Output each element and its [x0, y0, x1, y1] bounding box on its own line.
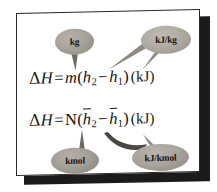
callout-bubble-kj-per-kg: kJ/kg — [141, 25, 191, 54]
equation-unit: (kJ) — [129, 110, 155, 127]
equation-molar-basis: ΔH=N(h2−h1)(kJ) — [29, 108, 155, 131]
callout-label-kj-per-kmol: kJ/kmol — [145, 152, 177, 163]
equation-unit: (kJ) — [129, 68, 155, 85]
callout-label-kj-per-kg: kJ/kg — [155, 35, 177, 45]
figure-container: ΔH=m(h2−h1)(kJ) ΔH=N(h2−h1)(kJ) kg kJ/kg… — [0, 0, 217, 192]
hbar2-subscript: 2 — [91, 119, 97, 130]
enthalpy-symbol: H — [41, 110, 53, 129]
h1-symbol: h — [109, 67, 117, 86]
close-paren: ) — [123, 109, 129, 128]
equals-sign: = — [53, 68, 65, 87]
minus-sign: − — [97, 67, 109, 86]
callout-label-kmol: kmol — [65, 155, 85, 165]
equation-mass-basis: ΔH=m(h2−h1)(kJ) — [29, 66, 155, 89]
minus-sign: − — [97, 109, 109, 128]
equals-sign: = — [53, 110, 65, 129]
h2-subscript: 2 — [91, 77, 97, 88]
close-paren: ) — [123, 67, 129, 86]
h2-symbol: h — [83, 67, 91, 86]
mole-number-symbol: N — [65, 110, 77, 129]
delta-symbol: Δ — [29, 68, 41, 87]
delta-symbol: Δ — [29, 110, 41, 129]
hbar1-symbol: h — [109, 109, 117, 129]
callout-bubble-kj-per-kmol: kJ/kmol — [132, 143, 189, 171]
mass-symbol: m — [65, 68, 77, 87]
panel-content: ΔH=m(h2−h1)(kJ) ΔH=N(h2−h1)(kJ) kg kJ/kg… — [16, 9, 200, 176]
callout-bubble-kmol: kmol — [51, 147, 99, 174]
callout-label-kg: kg — [70, 37, 80, 47]
hbar2-symbol: h — [83, 109, 91, 129]
enthalpy-symbol: H — [41, 68, 53, 87]
callout-bubble-kg: kg — [55, 28, 94, 55]
